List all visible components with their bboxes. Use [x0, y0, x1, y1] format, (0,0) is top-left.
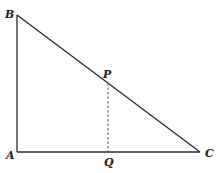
label-p: P — [102, 68, 112, 81]
label-c: C — [205, 147, 214, 160]
label-a: A — [5, 149, 15, 162]
label-b: B — [4, 8, 14, 21]
label-q: Q — [104, 156, 114, 169]
triangle-diagram: B A P Q C — [0, 0, 222, 173]
